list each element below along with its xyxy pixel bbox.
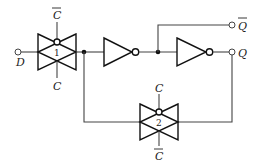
tg2-number: 2: [156, 118, 162, 128]
inv1-triangle: [104, 38, 132, 66]
label-q-bar: Q: [238, 20, 247, 33]
transmission-gate-1: 1 C C: [38, 8, 76, 93]
label-tg1-top-c-bar: C: [53, 9, 62, 22]
d-latch-diagram: D 1 C C Q Q 2: [0, 0, 259, 168]
label-q: Q: [238, 47, 247, 60]
output-q-terminal: [229, 49, 235, 55]
inverter-1: [104, 38, 139, 66]
wire-q-bar: [158, 25, 229, 52]
inv2-bubble: [206, 49, 212, 55]
tg1-number: 1: [54, 48, 60, 58]
tg2-inversion-bubble: [156, 109, 162, 115]
label-tg2-top-c: C: [155, 82, 164, 95]
label-tg1-bottom-c: C: [53, 80, 62, 93]
tg1-inversion-bubble: [54, 39, 60, 45]
output-q-bar-terminal: [229, 22, 235, 28]
label-tg2-bottom-c-bar: C: [155, 150, 164, 163]
inv1-bubble: [132, 49, 138, 55]
wire-feedback-right: [178, 55, 232, 122]
inv2-triangle: [177, 38, 206, 66]
label-d: D: [15, 56, 25, 69]
input-d-terminal: [15, 49, 21, 55]
transmission-gate-2: 2 C C: [140, 82, 178, 163]
inverter-2: [177, 38, 213, 66]
